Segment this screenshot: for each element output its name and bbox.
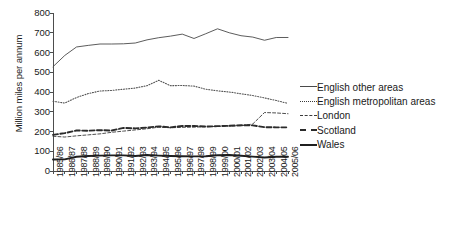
x-tick-label: 1994/95 <box>162 147 171 177</box>
legend-item[interactable]: Wales <box>300 138 453 152</box>
x-tick-label: 2001/02 <box>244 147 253 177</box>
legend: English other areasEnglish metropolitan … <box>300 80 453 152</box>
legend-item-label: Wales <box>317 139 344 150</box>
legend-item[interactable]: Scotland <box>300 123 453 137</box>
legend-item-label: English other areas <box>317 82 403 93</box>
legend-swatch-icon <box>300 82 317 92</box>
legend-item[interactable]: English metropolitan areas <box>300 94 453 108</box>
legend-item[interactable]: English other areas <box>300 80 453 94</box>
legend-item-label: English metropolitan areas <box>317 96 435 107</box>
x-tick-label: 1993/94 <box>150 147 159 177</box>
x-tick-label: 1985/86 <box>56 147 65 177</box>
x-tick-label: 2003/04 <box>268 147 277 177</box>
x-tick-label: 1998/99 <box>209 147 218 177</box>
legend-swatch-icon <box>300 140 317 150</box>
x-tick-label: 1999/00 <box>221 147 230 177</box>
x-tick-label: 1988/89 <box>92 147 101 177</box>
x-tick-label: 2002/03 <box>256 147 265 177</box>
x-tick-label: 1990/91 <box>115 147 124 177</box>
x-tick-label: 2004/05 <box>280 147 289 177</box>
legend-item[interactable]: London <box>300 109 453 123</box>
x-tick-label: 1987/88 <box>80 147 89 177</box>
x-tick-label: 1996/97 <box>186 147 195 177</box>
x-tick-label: 1991/92 <box>127 147 136 177</box>
legend-item-label: Scotland <box>317 125 356 136</box>
line-chart: Million miles per annum 0100200300400500… <box>0 0 453 236</box>
x-tick-label: 1992/93 <box>139 147 148 177</box>
x-tick-label: 1989/90 <box>103 147 112 177</box>
legend-swatch-icon <box>300 97 317 107</box>
legend-swatch-icon <box>300 125 317 135</box>
legend-swatch-icon <box>300 111 317 121</box>
x-tick-label: 2000/01 <box>233 147 242 177</box>
legend-item-label: London <box>317 110 350 121</box>
x-tick-label: 1995/96 <box>174 147 183 177</box>
x-tick-label: 1997/98 <box>197 147 206 177</box>
x-tick-label: 1986/87 <box>68 147 77 177</box>
